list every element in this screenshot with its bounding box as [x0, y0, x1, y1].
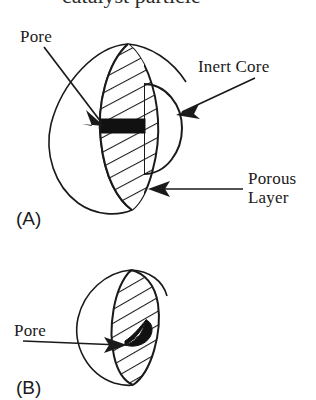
diagram-canvas: Pore Inert Core Porous Layer (A) Pore (B…	[0, 0, 316, 400]
figure-root: catalyst particle	[0, 0, 316, 400]
pore-leader-line-b	[23, 341, 120, 345]
label-porous-layer-line2: Layer	[248, 188, 289, 207]
label-panel-a: (A)	[16, 208, 41, 229]
label-inert-core: Inert Core	[198, 57, 269, 76]
label-pore-b: Pore	[14, 321, 46, 340]
pore-channel-a	[101, 119, 145, 133]
panel-b-diagram	[23, 262, 180, 394]
label-porous-layer-line1: Porous	[248, 169, 296, 188]
label-pore-a: Pore	[20, 27, 52, 46]
label-panel-b: (B)	[16, 377, 41, 398]
